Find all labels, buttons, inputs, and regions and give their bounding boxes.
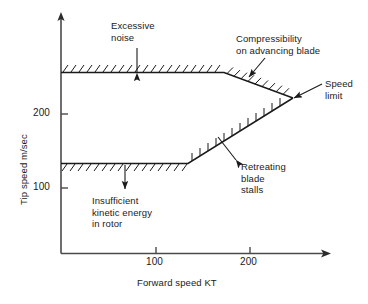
- y-axis-title: Tip speed m/sec: [18, 134, 29, 205]
- x-axis: [61, 250, 331, 258]
- annotation-compressibility-on-advancing-blade: Compressibility on advancing blade: [236, 33, 320, 56]
- x-axis-ticks: [156, 247, 250, 254]
- hatch-upper-flat: [63, 65, 220, 72]
- hatch-lower-slope: [192, 98, 280, 161]
- y-tick-label-200: 200: [33, 107, 50, 118]
- annotation-speed-limit: Speed limit: [325, 78, 353, 101]
- annotation-excessive-noise: Excessive noise: [111, 20, 155, 43]
- retreating-blade-stalls-leader: [218, 137, 236, 160]
- annotation-retreating-blade-stalls: Retreating blade stalls: [241, 161, 286, 196]
- y-axis-ticks: [61, 114, 68, 188]
- x-tick-label-100: 100: [146, 256, 163, 267]
- annotation-insufficient-kinetic-energy-in-rotor: Insufficient kinetic energy in rotor: [92, 195, 152, 230]
- compressibility-leader: [249, 58, 265, 77]
- y-tick-label-100: 100: [33, 181, 50, 192]
- x-tick-label-200: 200: [240, 256, 257, 267]
- y-axis: [57, 12, 64, 254]
- hatch-upper-slope: [227, 68, 289, 95]
- x-axis-title: Forward speed KT: [137, 277, 217, 288]
- speed-limit-leader: [294, 84, 322, 98]
- compressibility-boundary-line: [61, 65, 293, 98]
- chart-figure: Tip speed m/sec Forward speed KT 200 100…: [0, 0, 368, 304]
